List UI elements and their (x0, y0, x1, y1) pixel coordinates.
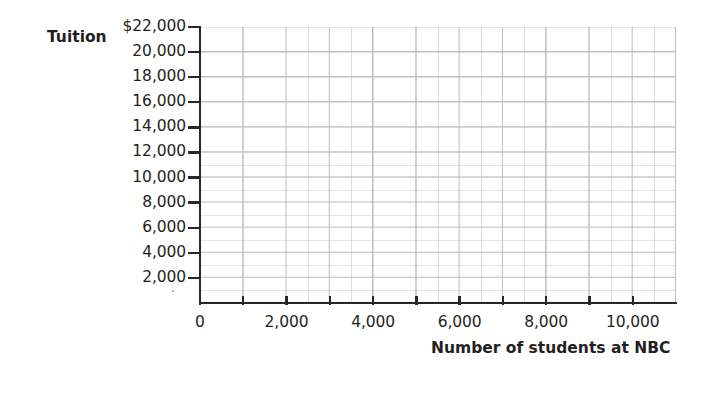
y-axis-tick (188, 151, 201, 153)
y-axis-tick-label: 2,000 (66, 268, 186, 286)
y-axis-tick (188, 252, 201, 254)
grid-major-lines (200, 27, 676, 303)
y-axis-line (199, 26, 201, 304)
x-axis-minor-tick (415, 296, 417, 305)
y-axis-tick-label: 10,000 (66, 168, 186, 186)
y-axis-tick-label: 12,000 (66, 142, 186, 160)
y-axis-tick-label: 14,000 (66, 117, 186, 135)
y-axis-tick (188, 26, 201, 28)
x-axis-minor-tick (588, 296, 590, 305)
y-axis-tick-labels: $22,00020,00018,00016,00014,00012,00010,… (62, 0, 186, 394)
x-axis-tick (545, 296, 547, 305)
y-axis-tick (188, 277, 201, 279)
y-axis-tick (188, 76, 201, 78)
plot-area (200, 27, 676, 303)
y-axis-tick (188, 176, 201, 178)
chart-figure: $22,00020,00018,00016,00014,00012,00010,… (0, 0, 711, 394)
x-axis-tick (372, 296, 374, 305)
x-axis-minor-tick (329, 296, 331, 305)
y-axis-tick (188, 201, 201, 203)
scan-artifact-speck (172, 290, 174, 292)
y-axis-tick (188, 51, 201, 53)
y-axis-tick-label: 6,000 (66, 218, 186, 236)
x-axis-tick (458, 296, 460, 305)
x-axis-tick (285, 296, 287, 305)
x-axis-minor-tick (242, 296, 244, 305)
y-axis-tick-label: 8,000 (66, 193, 186, 211)
x-axis-line (199, 302, 677, 304)
x-axis-tick-label: 10,000 (578, 313, 688, 331)
y-axis-title: Tuition (47, 28, 107, 46)
x-axis-tick (199, 296, 201, 305)
x-axis-title: Number of students at NBC (431, 339, 670, 357)
y-axis-tick-label: 4,000 (66, 243, 186, 261)
y-axis-tick-label: 16,000 (66, 92, 186, 110)
y-axis-tick-label: 18,000 (66, 67, 186, 85)
y-axis-tick (188, 126, 201, 128)
y-axis-tick (188, 101, 201, 103)
y-axis-tick (188, 227, 201, 229)
x-axis-tick (632, 296, 634, 305)
x-axis-minor-tick (502, 296, 504, 305)
